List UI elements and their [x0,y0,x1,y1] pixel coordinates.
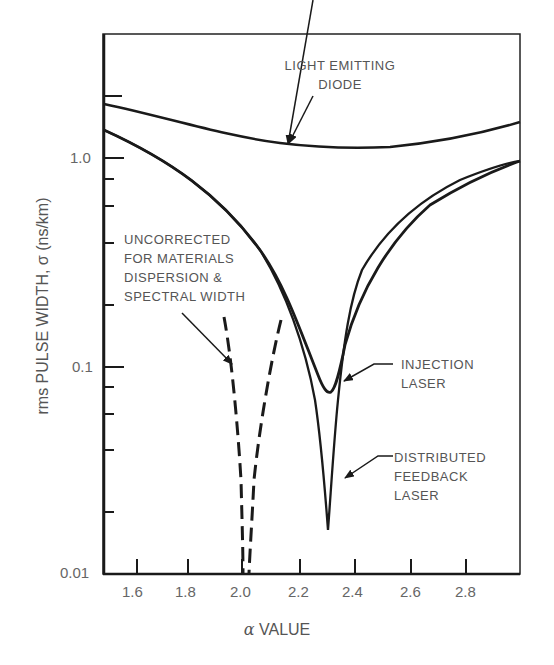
led-annotation-line2: DIODE [250,75,430,94]
y-tick-label-0-1: 0.1 [72,358,93,375]
x-tick-label-2-2: 2.2 [288,583,309,600]
uncorrected-dashed-curve-right [249,320,281,573]
x-tick-label-2-0: 2.0 [230,583,251,600]
dfb-annotation-line1: DISTRIBUTED [394,448,486,467]
uncorrected-annotation-line4: SPECTRAL WIDTH [124,287,245,306]
uncorrected-annotation-line2: FOR MATERIALS [124,249,245,268]
dfb-annotation-line3: LASER [394,486,486,505]
dfb-arrow [345,456,393,478]
dfb-annotation: DISTRIBUTED FEEDBACK LASER [394,448,486,505]
x-tick-label-2-6: 2.6 [400,583,421,600]
x-axis-label: α VALUE [0,620,554,639]
uncorrected-annotation: UNCORRECTED FOR MATERIALS DISPERSION & S… [124,230,245,306]
x-tick-label-1-6: 1.6 [122,583,143,600]
led-curve [104,104,520,148]
dfb-annotation-line2: FEEDBACK [394,467,486,486]
x-axis-label-text: VALUE [255,621,311,638]
injection-annotation-line2: LASER [401,374,474,393]
injection-annotation-line1: INJECTION [401,355,474,374]
y-ticks [104,96,124,512]
x-tick-label-2-8: 2.8 [455,583,476,600]
injection-arrow [344,364,393,381]
uncorrected-annotation-line1: UNCORRECTED [124,230,245,249]
y-axis-label: rms PULSE WIDTH, σ (ns/km) [34,161,56,451]
x-tick-label-1-8: 1.8 [175,583,196,600]
x-ticks [137,559,466,574]
led-annotation: LIGHT EMITTING DIODE [250,56,430,94]
injection-annotation: INJECTION LASER [401,355,474,393]
y-tick-label-0-01: 0.01 [60,564,89,581]
y-tick-label-1: 1.0 [70,149,91,166]
alpha-symbol: α [244,620,255,639]
x-tick-label-2-4: 2.4 [342,583,363,600]
uncorrected-annotation-line3: DISPERSION & [124,268,245,287]
uncorrected-dashed-curve [224,317,243,573]
led-annotation-line1: LIGHT EMITTING [250,56,430,75]
